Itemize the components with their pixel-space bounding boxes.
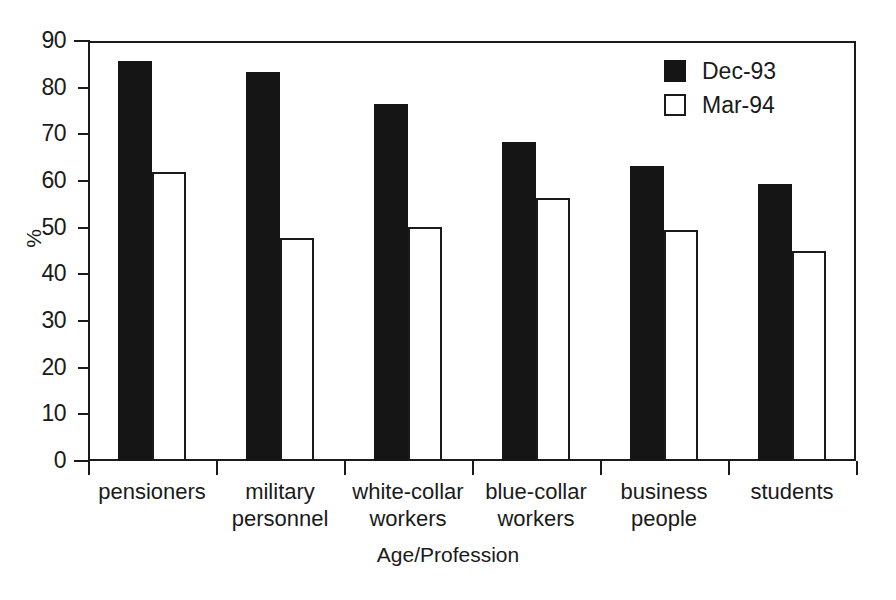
y-tick-label: 50	[18, 216, 66, 239]
legend-item: Dec-93	[664, 54, 776, 88]
bar-mar-94-pensioners	[152, 172, 186, 461]
y-axis-tick	[78, 367, 90, 369]
y-axis-tick	[78, 320, 90, 322]
x-axis-tick	[88, 461, 90, 475]
y-tick-label: 70	[18, 122, 66, 145]
y-tick-label: 40	[18, 262, 66, 285]
x-axis-tick	[600, 461, 602, 475]
legend-label: Mar-94	[702, 94, 775, 117]
x-axis-tick	[472, 461, 474, 475]
x-tick-label: students	[716, 478, 868, 505]
bar-chart: % 9080706050403020100 pensionersmilitary…	[0, 0, 896, 600]
y-axis-tick	[78, 87, 90, 89]
y-axis-tick	[78, 180, 90, 182]
legend-swatch-outlined-square-icon	[664, 94, 686, 116]
y-tick-label: 80	[18, 76, 66, 99]
y-axis-tick	[78, 227, 90, 229]
y-tick-label: 10	[18, 402, 66, 425]
legend: Dec-93Mar-94	[664, 54, 776, 122]
bar-dec-93-business-people	[630, 166, 664, 461]
y-tick-label: 90	[18, 29, 66, 52]
x-axis-tick	[216, 461, 218, 475]
y-tick-label: 20	[18, 356, 66, 379]
legend-swatch-filled-square-icon	[664, 60, 686, 82]
y-axis-tick	[78, 273, 90, 275]
y-tick-label: 30	[18, 309, 66, 332]
bar-mar-94-blue-collar-workers	[536, 198, 570, 461]
bar-dec-93-military-personnel	[246, 72, 280, 461]
x-axis-tick	[344, 461, 346, 475]
legend-item: Mar-94	[664, 88, 776, 122]
y-axis-tick	[78, 133, 90, 135]
bar-mar-94-students	[792, 251, 826, 461]
bar-mar-94-military-personnel	[280, 238, 314, 461]
bar-dec-93-white-collar-workers	[374, 104, 408, 461]
bar-mar-94-white-collar-workers	[408, 227, 442, 461]
y-axis-tick	[78, 413, 90, 415]
y-tick-label: 60	[18, 169, 66, 192]
bar-dec-93-blue-collar-workers	[502, 142, 536, 461]
bar-mar-94-business-people	[664, 230, 698, 461]
bar-dec-93-pensioners	[118, 61, 152, 461]
y-axis-tick	[74, 40, 90, 42]
x-axis-tick	[856, 461, 858, 475]
bar-dec-93-students	[758, 184, 792, 461]
x-axis-tick	[728, 461, 730, 475]
legend-label: Dec-93	[702, 60, 776, 83]
y-tick-label: 0	[18, 449, 66, 472]
x-axis-title: Age/Profession	[0, 543, 896, 567]
